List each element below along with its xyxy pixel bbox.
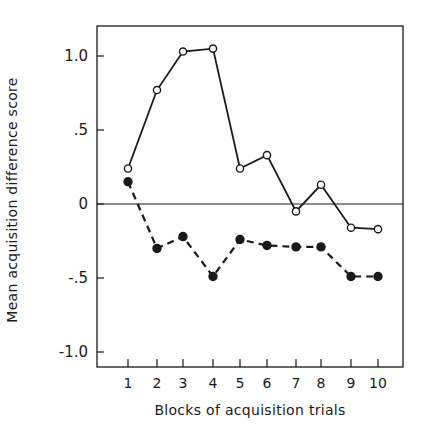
line-chart: 1.0.50-.5-1.012345678910	[0, 0, 431, 438]
open-circle-marker	[236, 165, 243, 172]
x-tick-label: 6	[263, 375, 272, 391]
x-tick-label: 3	[179, 375, 188, 391]
open-circle-marker	[179, 48, 186, 55]
filled-circle-marker	[292, 243, 300, 251]
y-tick-label: 1.0	[64, 47, 88, 65]
open-circle-marker	[209, 45, 216, 52]
y-tick-label: .5	[74, 121, 88, 139]
filled-circle-marker	[374, 273, 382, 281]
y-axis-label: Mean acquisition difference score	[4, 50, 24, 350]
plot-frame	[97, 26, 403, 367]
filled-circle-marker	[236, 236, 244, 244]
x-tick-label: 2	[153, 375, 162, 391]
x-tick-label: 9	[347, 375, 356, 391]
filled-circle-marker	[263, 241, 271, 249]
x-tick-label: 8	[317, 375, 326, 391]
series-line-2	[128, 182, 378, 277]
open-circle-marker	[263, 152, 270, 159]
open-circle-marker	[124, 165, 131, 172]
x-tick-label: 5	[236, 375, 245, 391]
x-tick-label: 10	[369, 375, 387, 391]
filled-circle-marker	[209, 273, 217, 281]
x-axis-label: Blocks of acquisition trials	[97, 402, 403, 418]
filled-circle-marker	[179, 233, 187, 241]
x-tick-label: 1	[124, 375, 133, 391]
open-circle-marker	[292, 208, 299, 215]
open-circle-marker	[347, 224, 354, 231]
filled-circle-marker	[317, 243, 325, 251]
series-line-1	[128, 49, 378, 230]
x-tick-label: 7	[292, 375, 301, 391]
filled-circle-marker	[124, 178, 132, 186]
filled-circle-marker	[153, 244, 161, 252]
open-circle-marker	[317, 181, 324, 188]
y-tick-label: -1.0	[59, 343, 88, 361]
x-tick-label: 4	[209, 375, 218, 391]
filled-circle-marker	[347, 273, 355, 281]
y-tick-label: 0	[78, 195, 88, 213]
open-circle-marker	[153, 86, 160, 93]
y-tick-label: -.5	[68, 269, 88, 287]
open-circle-marker	[374, 226, 381, 233]
